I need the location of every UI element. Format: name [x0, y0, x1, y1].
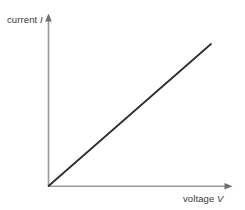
y-axis-label: current I — [7, 14, 43, 25]
iv-characteristic-chart: current I voltage V — [0, 0, 245, 210]
x-axis-label-text: voltage — [183, 193, 214, 204]
y-axis-label-symbol: I — [40, 14, 43, 25]
x-axis-label: voltage V — [183, 193, 224, 204]
x-axis-label-symbol: V — [217, 193, 223, 204]
x-axis-arrowhead-icon — [225, 183, 233, 190]
y-axis-arrowhead-icon — [45, 14, 52, 22]
data-line-series-0 — [49, 44, 212, 186]
plot-area — [0, 0, 245, 210]
y-axis-label-text: current — [7, 14, 37, 25]
